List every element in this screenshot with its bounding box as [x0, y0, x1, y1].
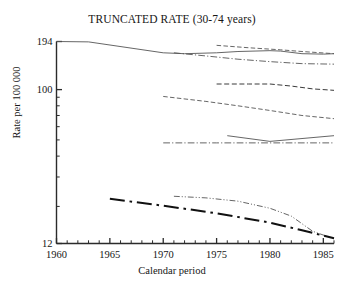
- x-tick-label: 1960: [46, 249, 67, 260]
- y-tick-label: 100: [37, 84, 53, 95]
- data-line: [217, 45, 334, 53]
- data-line: [110, 199, 334, 238]
- data-line: [57, 42, 335, 55]
- y-tick-label: 194: [37, 36, 54, 47]
- y-tick-label: 12: [42, 238, 53, 249]
- data-line: [217, 84, 334, 90]
- series-layer: [57, 42, 335, 239]
- chart-figure: TRUNCATED RATE (30-74 years) Rate per 10…: [0, 0, 344, 291]
- data-line: [227, 136, 334, 142]
- data-line: [163, 96, 334, 118]
- data-line: [174, 53, 334, 64]
- x-tick-label: 1975: [206, 249, 227, 260]
- x-tick-label: 1970: [153, 249, 174, 260]
- x-tick-label: 1980: [259, 249, 280, 260]
- x-tick-label: 1985: [313, 249, 334, 260]
- plot-area: 19410012196019651970197519801985: [0, 0, 344, 291]
- tick-label-layer: 19410012196019651970197519801985: [37, 36, 334, 259]
- x-tick-label: 1965: [99, 249, 120, 260]
